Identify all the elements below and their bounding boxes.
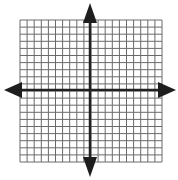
arrow-up-icon xyxy=(83,3,97,23)
arrow-down-icon xyxy=(83,157,97,177)
arrow-left-icon xyxy=(4,82,22,98)
coordinate-plane xyxy=(0,0,178,180)
arrow-right-icon xyxy=(158,82,176,98)
axes xyxy=(4,3,176,177)
